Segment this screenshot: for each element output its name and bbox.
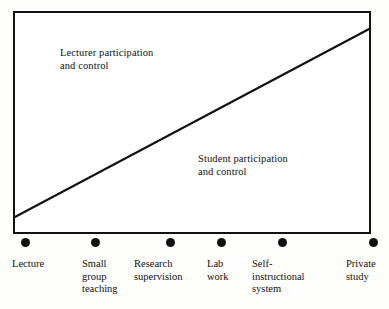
plot-frame (13, 11, 371, 234)
axis-dot-icon (217, 238, 226, 247)
axis-label-research-supervision: Research supervision (134, 258, 182, 283)
axis-label-private-study: Private study (346, 258, 376, 283)
axis-dot-icon (278, 238, 287, 247)
axis-dot-icon (91, 238, 100, 247)
axis-label-self-instructional-system: Self- instructional system (252, 258, 305, 296)
axis-label-lab-work: Lab work (207, 258, 229, 283)
axis-dot-icon (369, 238, 378, 247)
axis-dot-icon (21, 238, 30, 247)
region-label-lecturer: Lecturer participation and control (60, 47, 153, 72)
axis-label-small-group-teaching: Small group teaching (82, 258, 118, 296)
axis-label-lecture: Lecture (12, 258, 44, 271)
figure-container: Lecturer participation and control Stude… (0, 0, 389, 309)
region-label-student: Student participation and control (198, 153, 288, 178)
axis-dot-icon (166, 238, 175, 247)
